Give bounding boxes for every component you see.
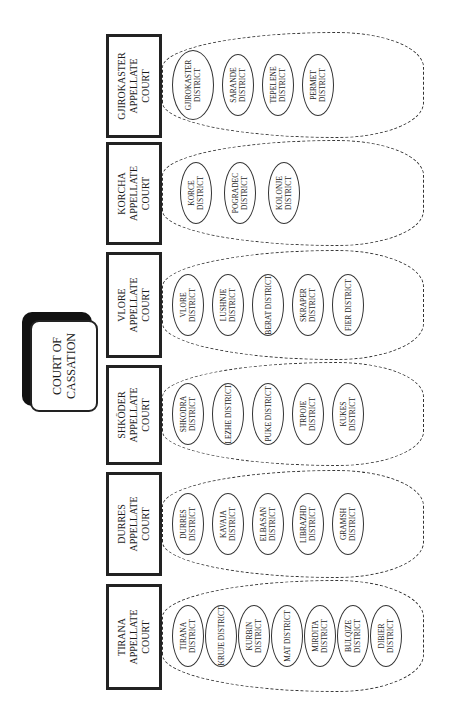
district-node: MAT DISTRICT — [271, 605, 303, 667]
district-node: KURBIN DISTRICT — [238, 605, 270, 667]
district-node: GJIROKASTER DISTRICT — [172, 50, 214, 120]
court-box-gjirokaster: GJIROKASTER APPELLATE COURT — [106, 34, 162, 138]
district-node: KRUJE DISTRICT — [205, 605, 237, 667]
district-node: TIRANA DISTRICT — [172, 605, 204, 667]
district-node: TRPOJE DISTRICT — [292, 383, 324, 445]
district-node: TEPELENE DISTRICT — [262, 54, 294, 116]
court-of-cassation-label: COURT OF CASSATION — [50, 326, 78, 406]
district-node: ELBASAN DISTRICT — [252, 493, 284, 555]
district-node: SKRAPER DISTRICT — [292, 274, 324, 336]
district-node: KOLONJE DISTRICT — [268, 162, 300, 224]
court-label: KORCHA APPELLATE COURT — [116, 151, 152, 236]
district-node: LIBRAZHD DISTRICT — [292, 493, 324, 555]
district-node: FIER DISTRICT — [332, 274, 364, 336]
district-node: POGRADEC DISTRICT — [224, 162, 256, 224]
court-box-tirana: TIRANA APPELLATE COURT — [106, 584, 162, 690]
district-node: MIRDITA DISTRICT — [304, 605, 336, 667]
district-node: BULQIZE DISTRICT — [337, 605, 369, 667]
court-box-vlore: VLORE APPELLATE COURT — [106, 252, 162, 358]
district-node: BERAT DISTRICT — [252, 274, 284, 336]
district-node: LUSHNJE DISTRICT — [212, 274, 244, 336]
district-node: SARANDE DISTRICT — [222, 54, 254, 116]
court-box-durres: DURRES APPELLATE COURT — [106, 472, 162, 576]
district-node: PUKE DISTRICT — [252, 383, 284, 445]
court-hierarchy-diagram: COURT OF CASSATION TIRANA APPELLATE COUR… — [0, 0, 464, 712]
district-node: PERMET DISTRICT — [302, 54, 334, 116]
district-node: SHKODRA DISTRICT — [172, 383, 204, 445]
court-label: GJIROKASTER APPELLATE COURT — [116, 43, 152, 129]
district-node: KUKES DISTRICT — [332, 383, 364, 445]
court-box-shkoder: SHKÖDER APPELLATE COURT — [106, 365, 162, 465]
district-node: GRAMSH DISTRICT — [332, 493, 364, 555]
district-node: KAVAJA DISTRICT — [212, 493, 244, 555]
court-label: VLORE APPELLATE COURT — [116, 261, 152, 349]
court-label: SHKÖDER APPELLATE COURT — [116, 374, 152, 456]
district-node: DIBIER DISTRICT — [370, 605, 402, 667]
district-node: DURRES DISTRICT — [172, 493, 204, 555]
district-node: VLORE DISTRICT — [172, 274, 204, 336]
court-box-korcha: KORCHA APPELLATE COURT — [106, 142, 162, 245]
district-node: LEZHE DISTRICT — [212, 383, 244, 445]
district-node: KORCE DISTRICT — [180, 162, 212, 224]
court-label: DURRES APPELLATE COURT — [116, 481, 152, 567]
court-label: TIRANA APPELLATE COURT — [116, 593, 152, 681]
court-of-cassation-box: COURT OF CASSATION — [30, 320, 98, 412]
